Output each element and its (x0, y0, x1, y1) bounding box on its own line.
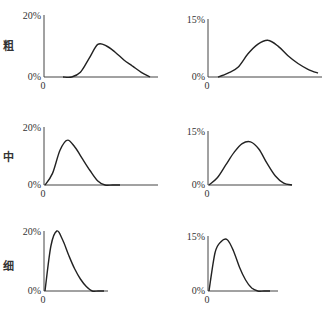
y-tick-zero: 0% (28, 179, 41, 190)
x-tick-zero: 0 (41, 294, 46, 305)
y-tick-zero: 0% (192, 285, 205, 296)
panel-left-2: 20%0%0 (23, 122, 158, 199)
x-tick-zero: 0 (41, 80, 46, 91)
distribution-curve (45, 231, 104, 291)
panel-right-5: 15%0%0 (187, 231, 278, 305)
figure: 粗 中 细 20%0%015%0%020%0%015%0%020%0%015%0… (0, 0, 331, 318)
plot-area: 20%0%015%0%020%0%015%0%020%0%015%0%0 (0, 0, 331, 318)
y-tick-zero: 0% (28, 71, 41, 82)
panel-left-4: 20%0%0 (23, 226, 108, 305)
y-tick-max: 20% (23, 10, 41, 21)
panel-left-0: 20%0%0 (23, 10, 158, 91)
y-tick-max: 20% (23, 122, 41, 133)
distribution-curve (209, 141, 292, 185)
y-tick-max: 15% (187, 126, 205, 137)
y-tick-max: 15% (187, 14, 205, 25)
distribution-curve (45, 140, 120, 185)
y-tick-zero: 0% (28, 285, 41, 296)
x-tick-zero: 0 (205, 80, 210, 91)
panel-right-3: 15%0%0 (187, 126, 292, 199)
panel-right-1: 15%0%0 (187, 14, 322, 91)
x-tick-zero: 0 (41, 188, 46, 199)
distribution-curve (63, 44, 150, 78)
x-tick-zero: 0 (205, 188, 210, 199)
y-tick-zero: 0% (192, 179, 205, 190)
distribution-curve (218, 40, 318, 77)
y-tick-max: 20% (23, 226, 41, 237)
y-tick-zero: 0% (192, 71, 205, 82)
x-tick-zero: 0 (205, 294, 210, 305)
y-tick-max: 15% (187, 231, 205, 242)
distribution-curve (209, 239, 270, 291)
